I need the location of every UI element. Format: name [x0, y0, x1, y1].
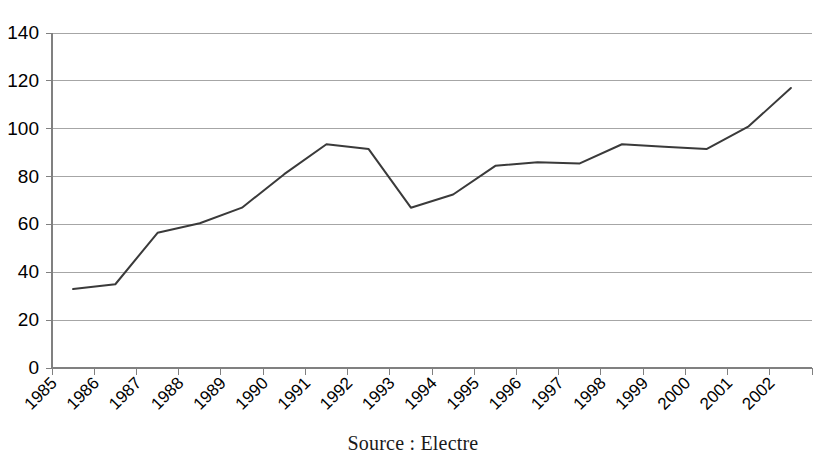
chart-plot-area: 020406080100120140 198519861987198819891… [0, 0, 826, 464]
x-axis-tick-label: 1997 [527, 373, 567, 413]
y-axis-tick-label: 0 [28, 357, 39, 378]
x-axis-tick-label: 1996 [485, 373, 525, 413]
x-axis-tick-label: 1991 [274, 373, 314, 413]
line-chart: 020406080100120140 198519861987198819891… [0, 0, 826, 464]
y-axis-tick-label: 40 [18, 261, 39, 282]
y-axis-tick-label: 80 [18, 166, 39, 187]
y-axis-tick-label: 20 [18, 309, 39, 330]
x-axis-tick-label: 1994 [401, 373, 441, 413]
x-axis-tick-label: 1999 [612, 373, 652, 413]
x-axis-tick-label: 1993 [358, 373, 398, 413]
x-axis-tick-label: 1992 [316, 373, 356, 413]
x-axis-tick-label: 2000 [654, 373, 694, 413]
x-axis-tick-label: 1985 [21, 373, 61, 413]
x-axis-tick-labels: 1985198619871988198919901991199219931994… [21, 373, 779, 413]
y-axis-tick-label: 120 [7, 70, 39, 91]
x-axis-tick-label: 2002 [738, 373, 778, 413]
y-axis-tick-label: 140 [7, 22, 39, 43]
x-axis-tick-label: 1998 [570, 373, 610, 413]
x-axis-tick-label: 1989 [190, 373, 230, 413]
x-axis-tick-label: 1990 [232, 373, 272, 413]
data-series-line [73, 88, 791, 289]
x-axis-tickmarks [52, 368, 812, 375]
y-axis-tick-label: 100 [7, 118, 39, 139]
x-axis-tick-label: 1995 [443, 373, 483, 413]
x-axis-tick-label: 1986 [63, 373, 103, 413]
x-axis-tick-label: 1988 [147, 373, 187, 413]
gridlines [46, 33, 812, 368]
x-axis-tick-label: 2001 [696, 373, 736, 413]
y-axis-tick-label: 60 [18, 213, 39, 234]
y-axis-tick-labels: 020406080100120140 [7, 22, 39, 378]
source-caption: Source : Electre [0, 432, 826, 455]
x-axis-tick-label: 1987 [105, 373, 145, 413]
